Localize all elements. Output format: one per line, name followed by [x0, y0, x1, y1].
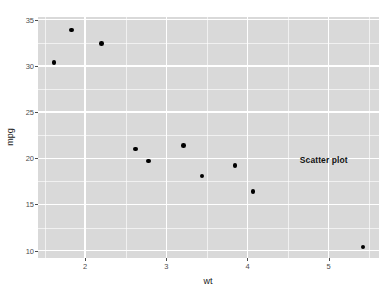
- y-axis-title: mpg: [5, 128, 15, 146]
- scatter-plot-figure: Scatter plot 1015202530352345 mpg wt: [0, 0, 392, 298]
- gridline-minor-vertical: [45, 17, 46, 258]
- y-tick-mark: [35, 112, 38, 113]
- y-tick-label: 35: [26, 15, 34, 24]
- x-tick-mark: [247, 258, 248, 261]
- plot-annotation-label: Scatter plot: [300, 155, 348, 165]
- gridline-minor-vertical: [126, 17, 127, 258]
- data-point: [181, 143, 186, 148]
- x-tick-mark: [85, 258, 86, 261]
- gridline-minor-vertical: [369, 17, 370, 258]
- gridline-minor-vertical: [288, 17, 289, 258]
- y-tick-mark: [35, 204, 38, 205]
- data-point: [69, 28, 74, 33]
- y-tick-mark: [35, 251, 38, 252]
- gridline-major-vertical: [166, 17, 167, 258]
- gridline-minor-vertical: [207, 17, 208, 258]
- y-tick-label: 30: [26, 61, 34, 70]
- data-point: [133, 147, 138, 152]
- x-tick-mark: [329, 258, 330, 261]
- x-tick-label: 4: [245, 262, 249, 271]
- y-tick-label: 15: [26, 200, 34, 209]
- y-tick-label: 20: [26, 154, 34, 163]
- data-point: [251, 189, 256, 194]
- y-tick-label: 25: [26, 108, 34, 117]
- data-point: [361, 245, 366, 250]
- y-tick-mark: [35, 158, 38, 159]
- gridline-major-vertical: [328, 17, 329, 258]
- data-point: [200, 174, 205, 179]
- y-tick-mark: [35, 20, 38, 21]
- data-point: [146, 159, 151, 164]
- data-point: [233, 163, 238, 168]
- x-tick-label: 5: [327, 262, 331, 271]
- plot-panel: Scatter plot: [38, 17, 379, 258]
- x-axis-title: wt: [204, 276, 213, 286]
- y-tick-mark: [35, 66, 38, 67]
- data-point: [99, 41, 104, 46]
- x-tick-label: 3: [164, 262, 168, 271]
- data-point: [52, 60, 57, 65]
- y-tick-label: 10: [26, 246, 34, 255]
- x-tick-mark: [166, 258, 167, 261]
- x-tick-label: 2: [83, 262, 87, 271]
- gridline-major-vertical: [247, 17, 248, 258]
- gridline-major-vertical: [84, 17, 85, 258]
